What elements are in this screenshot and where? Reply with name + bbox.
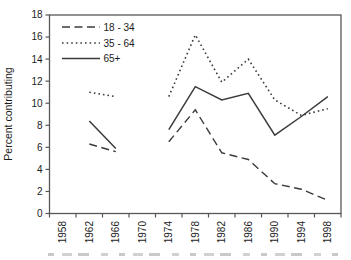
x-tick-label: 1966	[110, 221, 121, 244]
x-tick-label: 1958	[57, 221, 68, 244]
y-tick-label: 4	[37, 164, 43, 175]
y-tick-label: 8	[37, 120, 43, 131]
legend-item: 18 - 34	[62, 22, 135, 33]
line-chart: Percent contributing 0246810121416181958…	[0, 0, 351, 260]
x-tick-label: 1994	[296, 221, 307, 244]
y-tick-label: 12	[31, 76, 43, 87]
y-tick-label: 18	[31, 9, 43, 20]
y-tick-label: 6	[37, 142, 43, 153]
line-chart-svg: Percent contributing 0246810121416181958…	[0, 0, 351, 260]
x-tick-label: 1998	[322, 221, 333, 244]
legend-label: 35 - 64	[104, 38, 136, 49]
y-axis-title: Percent contributing	[2, 67, 14, 161]
plot-area: 0246810121416181958196219661970197419781…	[31, 9, 341, 243]
legend-label: 65+	[104, 53, 121, 64]
legend-item: 35 - 64	[62, 38, 135, 49]
y-tick-label: 10	[31, 98, 43, 109]
y-tick-label: 14	[31, 54, 43, 65]
x-tick-label: 1974	[163, 221, 174, 244]
y-tick-label: 16	[31, 31, 43, 42]
y-tick-label: 2	[37, 186, 43, 197]
x-tick-label: 1978	[190, 221, 201, 244]
x-tick-label: 1962	[84, 221, 95, 244]
legend-label: 18 - 34	[104, 22, 136, 33]
plot-border	[50, 15, 342, 214]
series-line-65+	[89, 87, 327, 149]
y-tick-label: 0	[37, 208, 43, 219]
legend-item: 65+	[62, 53, 121, 64]
x-tick-label: 1982	[216, 221, 227, 244]
x-tick-label: 1986	[243, 221, 254, 244]
x-tick-label: 1970	[137, 221, 148, 244]
cropped-caption-fragment	[48, 253, 346, 256]
legend: 18 - 3435 - 6465+	[62, 22, 135, 65]
x-tick-label: 1990	[269, 221, 280, 244]
